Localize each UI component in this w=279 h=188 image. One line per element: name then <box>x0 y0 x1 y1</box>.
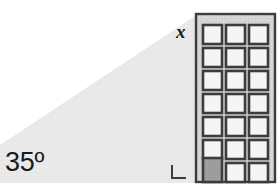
building-window <box>249 71 268 90</box>
building-window <box>226 25 245 44</box>
building-window <box>249 140 268 159</box>
building-window <box>226 163 245 182</box>
building-window <box>226 48 245 67</box>
building-window <box>203 140 222 159</box>
building-window <box>203 71 222 90</box>
angle-label: 35º <box>5 149 44 176</box>
building-window <box>203 25 222 44</box>
building-window <box>226 94 245 113</box>
building-window <box>203 117 222 136</box>
building-window <box>226 71 245 90</box>
trigonometry-diagram: 35º x <box>0 0 279 188</box>
building-window <box>249 25 268 44</box>
building-window <box>203 48 222 67</box>
building-window <box>249 94 268 113</box>
building-window <box>249 117 268 136</box>
building-window <box>203 94 222 113</box>
building-window <box>249 48 268 67</box>
building-window <box>226 117 245 136</box>
building-window <box>249 163 268 182</box>
height-label: x <box>176 22 186 41</box>
building-window <box>226 140 245 159</box>
building-door <box>203 158 222 182</box>
